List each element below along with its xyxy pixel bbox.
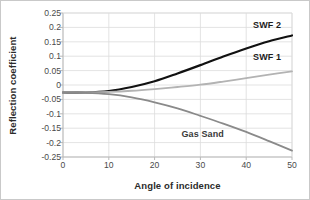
y-tick-label: -0.1 — [23, 109, 61, 119]
y-axis-tick-labels: 0.250.20.150.10.050-0.05-0.1-0.15-0.2-0.… — [20, 0, 61, 200]
y-tick-label: -0.15 — [23, 123, 61, 133]
y-axis-title: Reflection coefficient — [2, 0, 22, 170]
series-label-gas-sand: Gas Sand — [182, 129, 224, 139]
x-tick-label: 40 — [241, 160, 251, 170]
x-axis-title-text: Angle of incidence — [63, 180, 292, 191]
y-axis-title-text: Reflection coefficient — [7, 36, 18, 134]
x-tick-label: 20 — [150, 160, 160, 170]
x-tick-label: 50 — [287, 160, 297, 170]
y-tick-label: 0.15 — [23, 37, 61, 47]
y-tick-label: 0.1 — [23, 51, 61, 61]
x-tick-label: 0 — [61, 160, 66, 170]
y-tick-label: 0.2 — [23, 22, 61, 32]
series-label-swf2: SWF 2 — [253, 20, 281, 30]
y-tick-label: -0.05 — [23, 94, 61, 104]
y-tick-label: 0.05 — [23, 66, 61, 76]
y-tick-label: 0 — [23, 80, 61, 90]
x-tick-label: 10 — [104, 160, 114, 170]
chart-figure: Reflection coefficient 0.250.20.150.10.0… — [0, 0, 310, 200]
series-label-swf1: SWF 1 — [253, 52, 281, 62]
y-tick-label: -0.25 — [23, 152, 61, 162]
x-tick-label: 30 — [196, 160, 206, 170]
y-tick-label: 0.25 — [23, 8, 61, 18]
y-tick-label: -0.2 — [23, 138, 61, 148]
